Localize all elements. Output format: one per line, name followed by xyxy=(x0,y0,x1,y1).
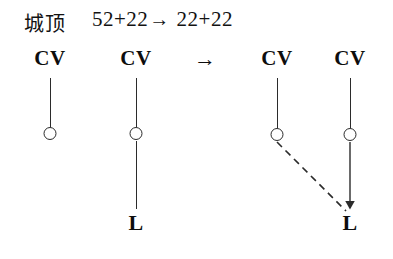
left-tree-2-leaf-stem xyxy=(136,141,137,209)
left-tree-1-mora-node-icon xyxy=(44,127,57,140)
formula-right-term: 22+22 xyxy=(177,7,233,31)
header-language-label: 城顶 xyxy=(24,8,66,37)
right-tree-1-root-stem xyxy=(277,78,278,128)
left-tree-1-root-stem xyxy=(50,78,51,127)
spreading-association-dashed-line xyxy=(277,142,346,211)
left-tree-2-root-stem xyxy=(136,78,137,127)
left-tree-2-mora-node-icon xyxy=(130,127,143,140)
right-tree-2-mora-node-icon xyxy=(344,128,357,141)
left-tree-1-root-label: CV xyxy=(34,46,65,71)
formula-arrow-icon: → xyxy=(148,8,171,30)
right-tree-2-leaf-label: L xyxy=(342,210,357,236)
derivation-arrow-icon: → xyxy=(183,47,227,71)
right-tree-1-mora-node-icon xyxy=(271,128,284,141)
right-tree-2-root-label: CV xyxy=(334,46,365,71)
figure-header: 城顶 52+22→ 22+22 xyxy=(0,6,393,36)
header-formula: 52+22→ 22+22 xyxy=(92,7,233,32)
left-tree-2-root-label: CV xyxy=(120,46,151,71)
association-lines-layer xyxy=(0,0,393,259)
right-tree-1-root-label: CV xyxy=(261,46,292,71)
formula-left-term: 52+22 xyxy=(92,7,148,31)
autosegmental-derivation-figure: 城顶 52+22→ 22+22 CV CV L → CV CV L xyxy=(0,0,393,259)
left-tree-2-leaf-label: L xyxy=(128,210,143,236)
right-tree-2-root-stem xyxy=(350,78,351,128)
